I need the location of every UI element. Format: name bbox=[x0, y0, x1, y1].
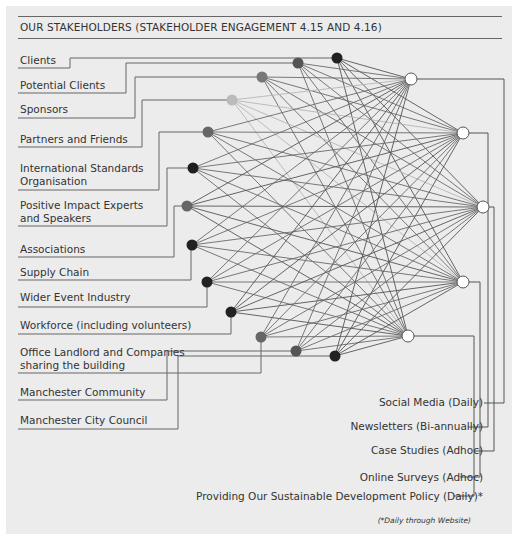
stakeholder-label-office-line2: sharing the building bbox=[20, 359, 125, 372]
stakeholder-label-potential-clients: Potential Clients bbox=[20, 79, 105, 92]
stakeholder-label-iso-line2: Organisation bbox=[20, 175, 87, 188]
stakeholder-label-manchester-community: Manchester Community bbox=[20, 386, 146, 399]
stakeholder-node bbox=[330, 351, 341, 362]
stakeholder-label-experts-line2: and Speakers bbox=[20, 212, 91, 225]
stakeholder-node bbox=[257, 72, 268, 83]
stakeholder-node bbox=[256, 332, 267, 343]
stakeholder-node bbox=[188, 163, 199, 174]
stakeholder-label-sponsors: Sponsors bbox=[20, 103, 68, 116]
stakeholder-node bbox=[202, 277, 213, 288]
stakeholder-label-supply-chain: Supply Chain bbox=[20, 266, 89, 279]
channel-node bbox=[402, 330, 414, 342]
stakeholder-label-associations: Associations bbox=[20, 243, 85, 256]
stakeholder-node bbox=[332, 53, 343, 64]
stakeholder-label-office-line1: Office Landlord and Companies bbox=[20, 346, 185, 359]
channel-label-case-studies: Case Studies (Adhoc) bbox=[371, 444, 483, 456]
stakeholder-label-workforce: Workforce (including volunteers) bbox=[20, 319, 191, 332]
stakeholder-label-iso-line1: International Standards bbox=[20, 162, 144, 175]
channel-node bbox=[405, 73, 417, 85]
channel-label-sd-policy: Providing Our Sustainable Development Po… bbox=[196, 490, 483, 502]
stakeholder-node bbox=[203, 127, 214, 138]
stakeholder-node bbox=[226, 307, 237, 318]
stakeholder-label-experts-line1: Positive Impact Experts bbox=[20, 199, 143, 212]
channel-label-newsletters: Newsletters (Bi-annually) bbox=[350, 420, 483, 432]
channel-node bbox=[457, 127, 469, 139]
channel-node bbox=[457, 276, 469, 288]
footnote: (*Daily through Website) bbox=[378, 516, 471, 525]
stakeholder-node bbox=[227, 95, 238, 106]
stakeholder-label-manchester-city-council: Manchester City Council bbox=[20, 414, 147, 427]
stakeholder-node bbox=[187, 240, 198, 251]
channel-label-social-media: Social Media (Daily) bbox=[379, 396, 483, 408]
channel-label-online-surveys: Online Surveys (Adhoc) bbox=[360, 471, 483, 483]
stakeholder-node bbox=[291, 346, 302, 357]
stakeholder-label-partners: Partners and Friends bbox=[20, 133, 128, 146]
stakeholder-node bbox=[182, 201, 193, 212]
stakeholder-label-wider-event-industry: Wider Event Industry bbox=[20, 291, 130, 304]
stakeholder-label-clients: Clients bbox=[20, 54, 56, 67]
channel-node bbox=[477, 201, 489, 213]
stakeholder-node bbox=[293, 58, 304, 69]
